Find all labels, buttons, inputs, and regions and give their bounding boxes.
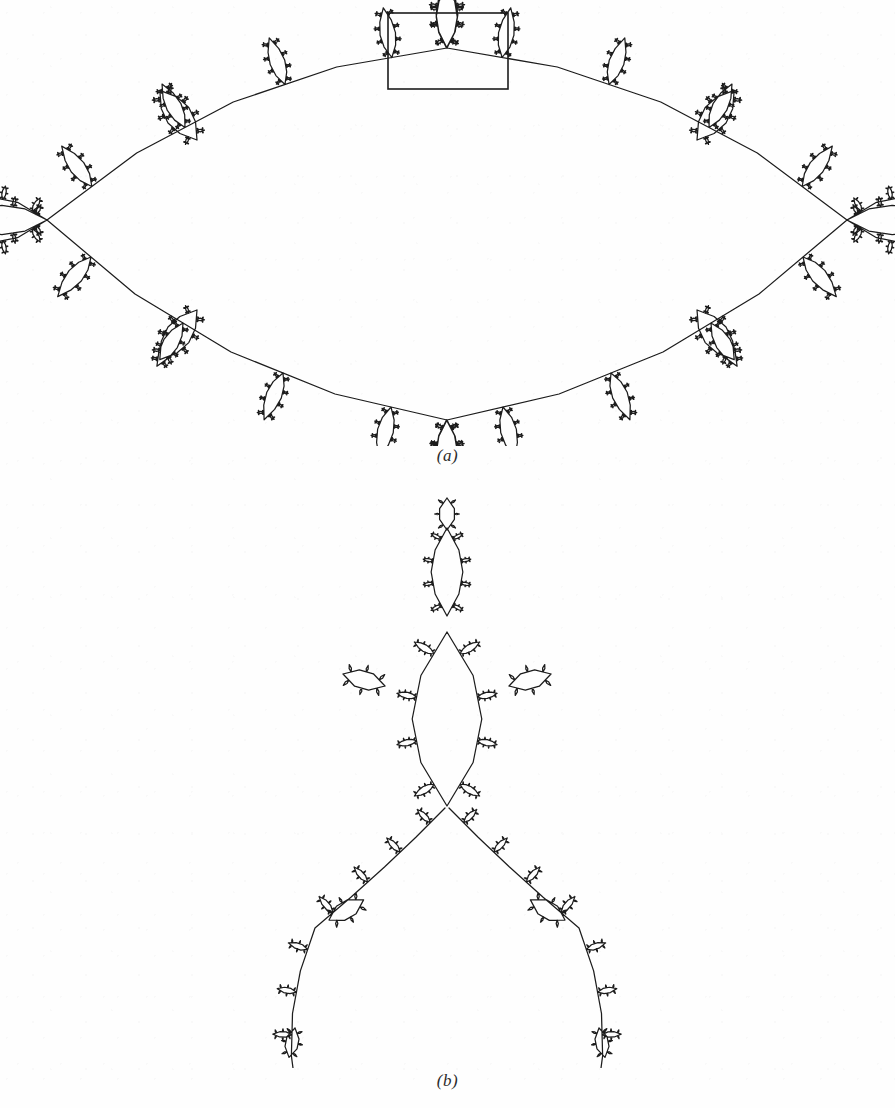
caption-b: (b) — [0, 1071, 895, 1091]
figure-page: (a) (b) — [0, 0, 895, 1108]
fractal-curve-b — [0, 478, 895, 1068]
figure-panel-a — [0, 0, 895, 478]
detail-region-box — [388, 13, 508, 89]
detail-box-overlay — [0, 0, 895, 446]
figure-panel-b — [0, 478, 895, 1108]
caption-a: (a) — [0, 446, 895, 466]
